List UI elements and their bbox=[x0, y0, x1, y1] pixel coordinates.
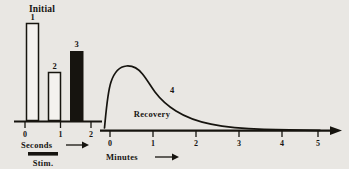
seconds-tick-label-1: 1 bbox=[59, 130, 63, 139]
minutes-tick-label-2: 2 bbox=[194, 139, 198, 148]
minutes-axis-arrow-icon bbox=[155, 153, 179, 160]
bar-chart-panel: Initial 1 2 3 0 1 2 Seconds bbox=[14, 4, 102, 168]
minutes-tick-label-5: 5 bbox=[316, 139, 320, 148]
minutes-axis-label: Minutes bbox=[106, 152, 138, 162]
bar-1 bbox=[27, 24, 39, 121]
minutes-tick-label-0: 0 bbox=[108, 139, 112, 148]
seconds-tick-label-0: 0 bbox=[23, 130, 27, 139]
bar-2 bbox=[49, 73, 61, 121]
seconds-axis-arrow-icon bbox=[66, 141, 89, 148]
minutes-axis-arrowhead-icon bbox=[330, 126, 342, 135]
scientific-figure: Initial 1 2 3 0 1 2 Seconds bbox=[0, 0, 349, 169]
figure-canvas: Initial 1 2 3 0 1 2 Seconds bbox=[0, 0, 349, 169]
minutes-tick-label-1: 1 bbox=[151, 139, 155, 148]
minutes-tick-label-3: 3 bbox=[237, 139, 241, 148]
bar-2-number: 2 bbox=[52, 61, 56, 71]
minutes-tick-label-4: 4 bbox=[280, 139, 284, 148]
bar-1-number: 1 bbox=[30, 12, 34, 22]
recovery-curve-panel: 4 Recovery 0 1 2 3 4 5 Minutes bbox=[100, 66, 342, 162]
seconds-tick-label-2: 2 bbox=[89, 130, 93, 139]
recovery-curve-line bbox=[105, 66, 321, 130]
bar-3-number: 3 bbox=[74, 39, 78, 49]
recovery-curve-label: Recovery bbox=[134, 109, 171, 119]
recovery-curve-number: 4 bbox=[170, 85, 175, 95]
stim-marker-bar bbox=[28, 152, 58, 156]
stim-label: Stim. bbox=[33, 158, 54, 168]
seconds-axis-label: Seconds bbox=[21, 140, 53, 150]
bar-3 bbox=[71, 52, 84, 121]
